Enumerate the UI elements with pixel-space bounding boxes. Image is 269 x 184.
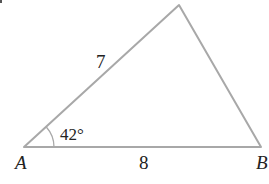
triangle-diagram: 7 42° A 8 B bbox=[0, 0, 269, 184]
corner-mark bbox=[0, 0, 2, 3]
vertex-label-A: A bbox=[13, 152, 27, 173]
side-label-AC: 7 bbox=[96, 51, 106, 72]
angle-arc-A bbox=[46, 127, 54, 147]
angle-label-A: 42° bbox=[60, 125, 84, 144]
side-label-AB: 8 bbox=[139, 152, 149, 173]
vertex-label-B: B bbox=[256, 152, 268, 173]
